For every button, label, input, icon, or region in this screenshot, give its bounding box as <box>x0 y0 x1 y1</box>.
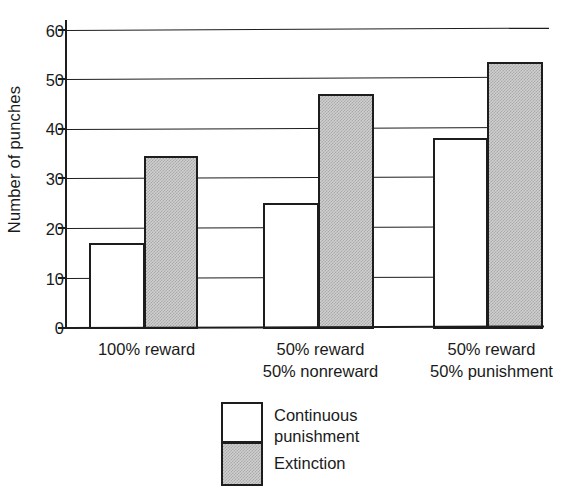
y-tick-label-60: 60 <box>30 23 64 40</box>
bar-group2-extinction <box>318 94 374 329</box>
legend-swatch-continuous-punishment <box>221 402 263 443</box>
x-axis-label-group2-line2: 50% nonreward <box>238 361 403 383</box>
bar-group2-continuous-punishment <box>263 203 319 329</box>
gridline-60 <box>66 28 549 31</box>
y-tick-label-50: 50 <box>30 72 64 89</box>
x-axis-label-group2-line1: 50% reward <box>238 339 403 361</box>
bar-chart-figure: Number of punches 60 50 40 30 20 10 0 <box>0 0 567 494</box>
legend-label-continuous-punishment: Continuous punishment <box>274 405 359 448</box>
bar-group1-extinction <box>144 156 198 329</box>
bar-group3-extinction <box>487 62 543 329</box>
x-axis-label-group2: 50% reward 50% nonreward <box>238 339 403 383</box>
bar-group3-continuous-punishment <box>433 138 488 329</box>
x-axis-label-group3-line2: 50% punishment <box>404 361 567 383</box>
x-axis-label-group3: 50% reward 50% punishment <box>404 339 567 383</box>
x-axis-label-group1: 100% reward <box>64 339 229 361</box>
bar-group1-continuous-punishment <box>89 243 145 329</box>
y-tick-label-10: 10 <box>30 271 64 288</box>
y-tick-label-20: 20 <box>30 221 64 238</box>
legend-swatch-extinction <box>221 442 263 486</box>
y-tick-label-30: 30 <box>30 171 64 188</box>
legend-label-extinction: Extinction <box>274 453 346 474</box>
y-axis-title: Number of punches <box>5 70 24 250</box>
gridline-50 <box>66 77 543 80</box>
y-axis-line <box>65 20 67 329</box>
gridline-40 <box>66 127 543 130</box>
x-axis-label-group1-line1: 100% reward <box>64 339 229 361</box>
plot-area: Number of punches 60 50 40 30 20 10 0 <box>0 0 567 494</box>
x-axis-label-group3-line1: 50% reward <box>404 339 567 361</box>
